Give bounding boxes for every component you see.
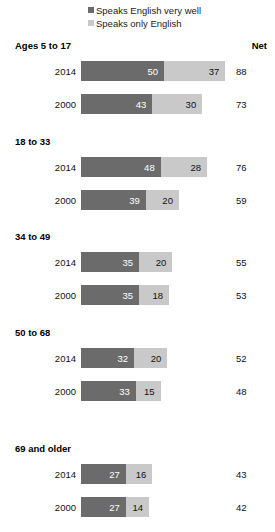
legend-item-label: Speaks only English: [96, 18, 182, 29]
age-group: 69 and older20142716432000271442: [0, 443, 275, 532]
bar-row: 2000271442: [0, 496, 275, 518]
bar-row: 2014271643: [0, 463, 275, 485]
bar-row-year-label: 2014: [40, 257, 76, 268]
age-group: 34 to 4920143520552000351853: [0, 231, 275, 321]
age-group: 18 to 3320144828762000392059: [0, 136, 275, 226]
net-value: 73: [236, 99, 262, 110]
bar-segment-only-english[interactable]: 28: [161, 157, 207, 177]
bar-segment-value: 50: [147, 66, 164, 77]
bar-segment-value: 48: [144, 162, 161, 173]
stacked-bar[interactable]: 3220: [81, 348, 167, 368]
bar-row-year-label: 2000: [40, 502, 76, 513]
bar-segment-value: 37: [209, 66, 226, 77]
bar-segment-only-english[interactable]: 18: [139, 285, 169, 305]
bar-segment-value: 16: [136, 469, 153, 480]
bar-row-year-label: 2014: [40, 353, 76, 364]
bar-row: 2000392059: [0, 189, 275, 211]
bar-segment-only-english[interactable]: 37: [164, 61, 225, 81]
bar-segment-only-english[interactable]: 30: [152, 94, 202, 114]
stacked-bar[interactable]: 3315: [81, 381, 161, 401]
bar-segment-value: 18: [152, 290, 169, 301]
bar-row-year-label: 2000: [40, 195, 76, 206]
stacked-bar[interactable]: 4330: [81, 94, 202, 114]
bar-segment-very-well[interactable]: 27: [81, 464, 126, 484]
net-value: 59: [236, 195, 262, 206]
bar-segment-very-well[interactable]: 39: [81, 190, 146, 210]
bar-segment-only-english[interactable]: 15: [136, 381, 161, 401]
net-value: 53: [236, 290, 262, 301]
bar-row: 2014482876: [0, 156, 275, 178]
age-group-title: 69 and older: [15, 443, 71, 454]
bar-segment-only-english[interactable]: 20: [146, 190, 179, 210]
bar-row: 2014352055: [0, 251, 275, 273]
bar-segment-value: 30: [186, 99, 203, 110]
legend-item-only_english[interactable]: Speaks only English: [88, 17, 248, 29]
bar-segment-value: 35: [123, 257, 140, 268]
bar-row: 2014503788: [0, 60, 275, 82]
stacked-bar[interactable]: 3920: [81, 190, 179, 210]
bar-row: 2000331548: [0, 380, 275, 402]
bar-segment-only-english[interactable]: 16: [126, 464, 153, 484]
net-value: 55: [236, 257, 262, 268]
bar-segment-very-well[interactable]: 50: [81, 61, 164, 81]
bar-segment-very-well[interactable]: 27: [81, 497, 126, 517]
bar-segment-value: 33: [119, 386, 136, 397]
bar-segment-value: 20: [156, 257, 173, 268]
legend-swatch-icon: [88, 7, 94, 13]
stacked-bar[interactable]: 3520: [81, 252, 172, 272]
stacked-bar[interactable]: 5037: [81, 61, 227, 81]
bar-segment-very-well[interactable]: 48: [81, 157, 161, 177]
bar-segment-value: 28: [191, 162, 208, 173]
bar-row-year-label: 2014: [40, 66, 76, 77]
stacked-bar[interactable]: 2714: [81, 497, 151, 517]
age-group-title: 50 to 68: [15, 327, 50, 338]
bar-segment-value: 27: [109, 469, 126, 480]
bar-segment-very-well[interactable]: 32: [81, 348, 134, 368]
net-value: 52: [236, 353, 262, 364]
age-group-title: 34 to 49: [15, 231, 50, 242]
bar-row-year-label: 2014: [40, 469, 76, 480]
age-group-title: Ages 5 to 17: [15, 40, 71, 51]
stacked-bar[interactable]: 4828: [81, 157, 207, 177]
bar-segment-very-well[interactable]: 35: [81, 252, 139, 272]
bar-segment-value: 35: [123, 290, 140, 301]
bar-row-year-label: 2000: [40, 290, 76, 301]
legend-item-label: Speaks English very well: [96, 5, 201, 16]
bar-row: 2000433073: [0, 93, 275, 115]
age-group: Ages 5 to 1720145037882000433073: [0, 40, 275, 130]
bar-row-year-label: 2000: [40, 99, 76, 110]
chart-legend: Speaks English very wellSpeaks only Engl…: [88, 4, 248, 30]
bar-row-year-label: 2014: [40, 162, 76, 173]
bar-segment-only-english[interactable]: 20: [134, 348, 167, 368]
bar-segment-value: 39: [129, 195, 146, 206]
bar-segment-very-well[interactable]: 35: [81, 285, 139, 305]
stacked-bar-chart: Speaks English very wellSpeaks only Engl…: [0, 0, 275, 532]
bar-segment-value: 20: [162, 195, 179, 206]
age-group: 50 to 6820143220522000331548: [0, 327, 275, 417]
age-group-title: 18 to 33: [15, 136, 50, 147]
bar-segment-value: 32: [118, 353, 135, 364]
bar-segment-only-english[interactable]: 14: [126, 497, 149, 517]
legend-item-very_well[interactable]: Speaks English very well: [88, 4, 248, 16]
bar-segment-value: 15: [144, 386, 161, 397]
net-value: 88: [236, 66, 262, 77]
bar-segment-very-well[interactable]: 33: [81, 381, 136, 401]
net-value: 48: [236, 386, 262, 397]
bar-segment-value: 43: [136, 99, 153, 110]
net-value: 43: [236, 469, 262, 480]
bar-segment-only-english[interactable]: 20: [139, 252, 172, 272]
bar-row: 2014322052: [0, 347, 275, 369]
bar-segment-value: 27: [109, 502, 126, 513]
bar-segment-very-well[interactable]: 43: [81, 94, 152, 114]
stacked-bar[interactable]: 2716: [81, 464, 152, 484]
net-value: 76: [236, 162, 262, 173]
stacked-bar[interactable]: 3518: [81, 285, 169, 305]
bar-segment-value: 20: [151, 353, 168, 364]
bar-row-year-label: 2000: [40, 386, 76, 397]
legend-swatch-icon: [88, 20, 94, 26]
bar-segment-value: 14: [132, 502, 149, 513]
net-value: 42: [236, 502, 262, 513]
bar-row: 2000351853: [0, 284, 275, 306]
